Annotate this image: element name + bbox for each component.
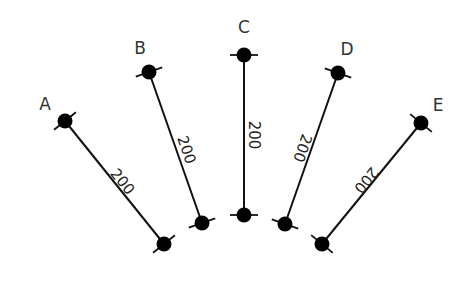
node-top	[142, 65, 157, 80]
node-bottom	[237, 208, 252, 223]
length-label: 200	[350, 164, 382, 198]
radial-members-diagram: A200B200C200D200E200	[0, 0, 469, 286]
member-label: B	[134, 38, 146, 58]
node-top	[331, 66, 346, 81]
node-bottom	[315, 237, 330, 252]
member-label: E	[433, 95, 444, 115]
length-label: 200	[245, 121, 263, 150]
member-label: A	[39, 94, 51, 114]
member-c: C200	[230, 17, 263, 223]
node-top	[237, 48, 252, 63]
member-b: B200	[134, 38, 215, 231]
member-label: D	[340, 39, 353, 59]
member-a: A200	[39, 94, 175, 253]
length-label: 200	[173, 133, 199, 166]
length-label: 200	[289, 132, 315, 165]
node-bottom	[195, 216, 210, 231]
node-top	[414, 116, 429, 131]
node-top	[58, 114, 73, 129]
node-bottom	[157, 237, 172, 252]
node-bottom	[278, 217, 293, 232]
length-label: 200	[106, 165, 138, 199]
member-e: E200	[311, 95, 443, 253]
member-label: C	[238, 17, 250, 37]
member-d: D200	[272, 39, 354, 232]
